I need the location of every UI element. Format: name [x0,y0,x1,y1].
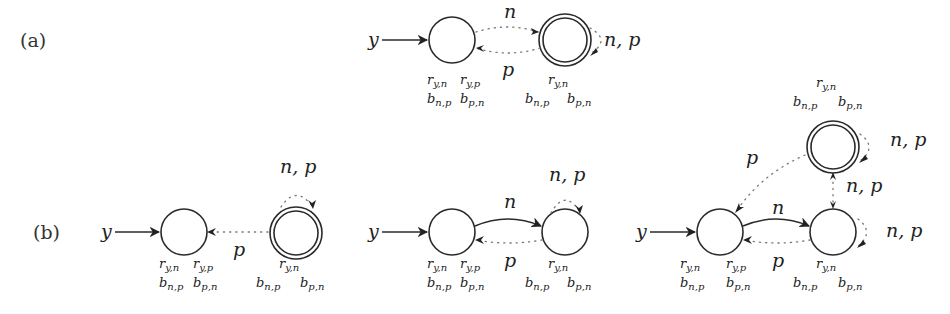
label-p: p [502,58,514,80]
transition-p [744,240,810,243]
state-b31-annotations: ry,n bn,p bp,n [793,256,862,292]
state-b11-accepting [270,207,322,259]
state-b30-annotations: ry,n ry,p bn,p bp,n [680,256,750,292]
svg-text:bn,p: bn,p [793,275,818,292]
arrowhead [531,28,539,35]
label-np: n, p [604,28,640,50]
state-b20-annotations: ry,n ry,p bn,p bp,n [427,256,484,292]
svg-text:bn,p: bn,p [159,275,184,292]
arrowhead [207,228,216,236]
svg-text:bp,n: bp,n [838,94,862,111]
state-a0-annotations: ry,n ry,p bn,p bp,n [427,72,484,108]
subfigure-b1: y p n, p ry,n ry,p bn,p bp,n ry,n [100,155,324,292]
label-p: p [233,238,245,260]
input-symbol-y: y [635,220,647,242]
state-b10-annotations: ry,n ry,p bn,p bp,n [159,256,217,292]
state-b21-annotations: ry,n bn,p bp,n [525,256,591,292]
svg-text:ry,n: ry,n [816,75,836,92]
svg-text:bp,n: bp,n [567,275,591,292]
svg-text:ry,p: ry,p [460,72,481,89]
transition-n [475,219,541,226]
arrowhead [590,48,598,56]
svg-text:ry,p: ry,p [193,256,214,273]
part-a-label: (a) [20,29,46,51]
subfigure-b3: y n p n, p p [635,75,926,292]
input-symbol-y: y [367,28,379,50]
svg-text:ry,n: ry,n [680,256,700,273]
svg-text:ry,p: ry,p [726,256,747,273]
label-np: n, p [890,128,926,150]
state-b21 [542,209,588,255]
automata-diagram: (a) y n p n, p ry,n ry,p bn,p bp,n [0,0,950,314]
svg-text:bn,p: bn,p [793,94,818,111]
transition-n [476,27,538,32]
label-np-vertical: n, p [846,174,882,196]
svg-text:bp,n: bp,n [567,91,591,108]
state-b31 [810,209,856,255]
svg-text:bp,n: bp,n [193,275,217,292]
state-b32-annotations: ry,n bn,p bp,n [793,75,862,111]
svg-text:bp,n: bp,n [460,91,484,108]
arrowhead [859,155,868,163]
input-symbol-y: y [100,220,112,242]
svg-text:ry,n: ry,n [427,72,447,89]
label-n: n [772,196,784,218]
svg-text:bn,p: bn,p [256,275,281,292]
input-symbol-y: y [367,220,379,242]
svg-text:ry,n: ry,n [548,72,568,89]
label-p: p [772,249,784,271]
svg-text:bp,n: bp,n [726,275,750,292]
arrowhead [308,200,316,209]
arrowhead [857,240,866,248]
label-np: n, p [280,155,316,177]
transition-p [476,240,542,243]
label-np: n, p [886,219,922,241]
svg-text:ry,n: ry,n [816,256,836,273]
svg-text:bp,n: bp,n [838,275,862,292]
transition-p [476,48,540,53]
svg-text:ry,n: ry,n [159,256,179,273]
label-n: n [504,190,516,212]
svg-text:ry,n: ry,n [427,256,447,273]
label-np: n, p [549,163,585,185]
svg-text:ry,n: ry,n [548,256,568,273]
state-b32-accepting [807,121,859,173]
state-b11-annotations: ry,n bn,p bp,n [256,256,324,292]
svg-text:bn,p: bn,p [427,91,452,108]
arrowhead [743,236,752,244]
label-n: n [504,0,516,22]
transition-n [743,219,809,226]
state-b30 [697,209,743,255]
subfigure-b2: y n p n, p ry,n ry,p bn,p bp,n ry,n [367,163,591,292]
svg-text:bp,n: bp,n [460,275,484,292]
state-b10 [161,209,207,255]
svg-text:ry,p: ry,p [460,256,481,273]
svg-text:bn,p: bn,p [525,275,550,292]
arrowhead [475,236,484,244]
state-a1-annotations: ry,n bn,p bp,n [525,72,591,108]
arrowhead [735,203,744,213]
part-b-label: (b) [33,221,60,243]
label-p: p [504,249,516,271]
state-a0 [429,17,475,63]
svg-text:bn,p: bn,p [427,275,452,292]
state-a1-accepting [539,14,591,66]
svg-text:bn,p: bn,p [680,275,705,292]
svg-text:bp,n: bp,n [300,275,324,292]
self-loop [281,196,313,208]
part-a: (a) y n p n, p ry,n ry,p bn,p bp,n [20,0,640,108]
svg-text:bn,p: bn,p [525,91,550,108]
arrowhead [476,45,484,52]
state-b20 [429,209,475,255]
label-p-diagonal: p [746,146,758,168]
